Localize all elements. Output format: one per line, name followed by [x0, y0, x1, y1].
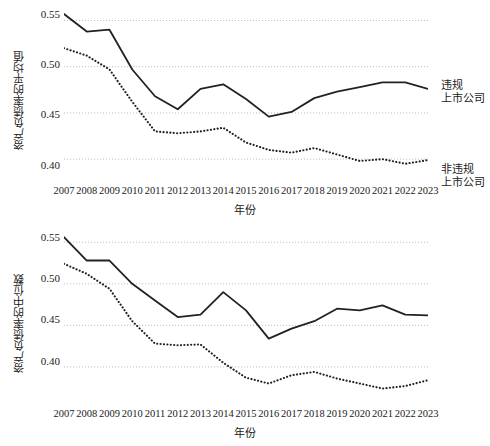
- x-tick-label: 2015: [236, 409, 257, 420]
- x-tick-label: 2010: [122, 186, 143, 197]
- x-axis-title-median: 年份: [0, 424, 490, 440]
- x-tick-label: 2013: [190, 409, 211, 420]
- chart-panel-mean: 资产负债率的平均值 0.55 0.50 0.45 0.40 2007200820…: [0, 0, 490, 223]
- x-tick-label: 2018: [304, 186, 325, 197]
- plot-area-mean: [64, 8, 428, 173]
- x-tick-label: 2009: [99, 186, 120, 197]
- series-line: [64, 48, 428, 164]
- x-tick-label: 2017: [281, 409, 302, 420]
- x-tick-label: 2022: [395, 409, 416, 420]
- x-tick-label: 2013: [190, 186, 211, 197]
- x-tick-label: 2007: [54, 186, 75, 197]
- x-tick-label: 2016: [258, 409, 279, 420]
- legend-label-line1: 非违规: [441, 163, 485, 176]
- x-tick-label: 2012: [167, 409, 188, 420]
- series-line: [64, 14, 428, 117]
- legend-entry-nonviolating-mean: 非违规 上市公司: [441, 163, 485, 188]
- x-tick-label: 2014: [213, 409, 234, 420]
- plot-svg-mean: [64, 8, 428, 173]
- y-axis-title-mean: 资产负债率的平均值: [9, 18, 29, 183]
- y-tick-label: 0.40: [26, 160, 60, 171]
- chart-panel-median: 资产负债率的中位数 0.55 0.50 0.45 0.40 2007200820…: [0, 223, 490, 446]
- x-tick-label: 2023: [418, 186, 439, 197]
- x-tick-label: 2008: [76, 409, 97, 420]
- y-tick-label: 0.45: [26, 314, 60, 325]
- x-tick-label: 2010: [122, 409, 143, 420]
- y-tick-label: 0.50: [26, 59, 60, 70]
- x-tick-label: 2008: [76, 186, 97, 197]
- x-tick-label: 2011: [145, 186, 166, 197]
- plot-svg-median: [64, 231, 428, 396]
- x-tick-label: 2017: [281, 186, 302, 197]
- x-tick-label: 2012: [167, 186, 188, 197]
- x-tick-label: 2016: [258, 186, 279, 197]
- x-tick-label: 2019: [327, 409, 348, 420]
- x-tick-label: 2007: [54, 409, 75, 420]
- x-tick-label: 2020: [349, 409, 370, 420]
- x-tick-label: 2023: [418, 409, 439, 420]
- x-axis-labels-mean: 2007200820092010201120122013201420152016…: [60, 186, 432, 200]
- y-tick-label: 0.55: [26, 9, 60, 20]
- legend-label-line2: 上市公司: [441, 176, 485, 189]
- legend-entry-violating-mean: 违规 上市公司: [441, 79, 485, 104]
- x-tick-label: 2020: [349, 186, 370, 197]
- x-tick-label: 2022: [395, 186, 416, 197]
- x-tick-label: 2018: [304, 409, 325, 420]
- x-axis-labels-median: 2007200820092010201120122013201420152016…: [60, 409, 432, 423]
- y-tick-label: 0.55: [26, 232, 60, 243]
- x-axis-title-mean: 年份: [0, 201, 490, 217]
- legend-label-line2: 上市公司: [441, 92, 485, 105]
- y-tick-label: 0.45: [26, 109, 60, 120]
- plot-area-median: [64, 231, 428, 396]
- series-line: [64, 264, 428, 389]
- x-tick-label: 2021: [372, 409, 393, 420]
- x-tick-label: 2014: [213, 186, 234, 197]
- x-tick-label: 2019: [327, 186, 348, 197]
- x-tick-label: 2015: [236, 186, 257, 197]
- y-tick-label: 0.50: [26, 273, 60, 284]
- x-tick-label: 2009: [99, 409, 120, 420]
- y-tick-label: 0.40: [26, 356, 60, 367]
- series-line: [64, 237, 428, 338]
- legend-label-line1: 违规: [441, 79, 485, 92]
- figure-debt-ratio-trends: 资产负债率的平均值 0.55 0.50 0.45 0.40 2007200820…: [0, 0, 490, 446]
- x-tick-label: 2011: [145, 409, 166, 420]
- x-tick-label: 2021: [372, 186, 393, 197]
